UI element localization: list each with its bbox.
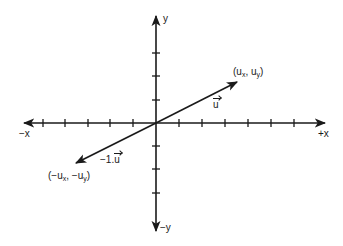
vector-u-endpoint-label: (ux, uy) (233, 67, 263, 78)
vector-negative-u-endpoint-label: (−ux, −uy) (48, 171, 90, 182)
y-negative-label: −y (160, 223, 171, 233)
x-positive-label: +x (318, 129, 329, 139)
x-negative-label: −x (19, 129, 30, 139)
vector-negative-u-label: −1.u (100, 155, 120, 165)
coordinate-plane (0, 0, 343, 246)
y-positive-label: y (163, 14, 168, 24)
vector-u-label: u (213, 100, 219, 110)
vector-diagram: y −y −x +x (ux, uy) u −1.u (−ux, −uy) (0, 0, 343, 246)
vector-u-arrow (156, 82, 237, 123)
